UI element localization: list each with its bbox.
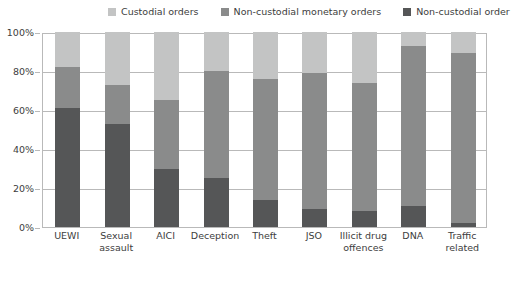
- bar-segment: [352, 211, 377, 227]
- legend-swatch-icon: [108, 8, 116, 16]
- bar-segment: [154, 100, 179, 168]
- chart-legend: Custodial ordersNon-custodial monetary o…: [108, 4, 508, 20]
- bar-jso[interactable]: [302, 32, 327, 227]
- bar-segment: [105, 124, 130, 227]
- bar-segment: [401, 206, 426, 227]
- bar-illicit-drug-offences[interactable]: [352, 32, 377, 227]
- bar-segment: [154, 32, 179, 100]
- y-axis: 0%20%40%60%80%100%: [0, 33, 40, 228]
- bar-segment: [451, 53, 476, 223]
- legend-item[interactable]: Non-custodial monetary orders: [221, 7, 382, 17]
- legend-item-label: Custodial orders: [121, 7, 199, 17]
- legend-item-label: Non-custodial order: [416, 7, 510, 17]
- legend-item-label: Non-custodial monetary orders: [234, 7, 382, 17]
- y-axis-tick-mark: [35, 150, 40, 151]
- bar-segment: [451, 32, 476, 53]
- stacked-bar-chart: Custodial ordersNon-custodial monetary o…: [0, 0, 512, 282]
- y-axis-tick-label: 0%: [19, 223, 34, 233]
- bars-layer: [43, 34, 486, 227]
- y-axis-tick-label: 60%: [13, 106, 34, 116]
- y-axis-tick-mark: [35, 33, 40, 34]
- y-axis-tick-mark: [35, 111, 40, 112]
- bar-segment: [204, 32, 229, 71]
- y-axis-tick-label: 100%: [7, 28, 34, 38]
- x-axis: UEWISexual assaultAICIDeceptionTheftJSOI…: [42, 230, 487, 280]
- y-axis-tick-label: 80%: [13, 67, 34, 77]
- y-axis-tick-mark: [35, 228, 40, 229]
- bar-segment: [302, 209, 327, 227]
- bar-segment: [204, 71, 229, 178]
- bar-segment: [105, 32, 130, 85]
- bar-segment: [451, 223, 476, 227]
- bar-segment: [55, 32, 80, 67]
- bar-sexual-assault[interactable]: [105, 32, 130, 227]
- legend-swatch-icon: [221, 8, 229, 16]
- bar-segment: [105, 85, 130, 124]
- bar-uewi[interactable]: [55, 32, 80, 227]
- bar-traffic-related[interactable]: [451, 32, 476, 227]
- y-axis-tick-mark: [35, 72, 40, 73]
- bar-segment: [253, 32, 278, 79]
- bar-segment: [352, 32, 377, 83]
- bar-segment: [253, 79, 278, 200]
- bar-segment: [302, 73, 327, 210]
- legend-item[interactable]: Custodial orders: [108, 7, 199, 17]
- y-axis-tick-label: 20%: [13, 184, 34, 194]
- bar-segment: [204, 178, 229, 227]
- bar-dna[interactable]: [401, 32, 426, 227]
- legend-swatch-icon: [403, 8, 411, 16]
- x-axis-category-label: Traffic related: [432, 230, 492, 253]
- bar-aici[interactable]: [154, 32, 179, 227]
- plot-area: [42, 33, 487, 228]
- y-axis-tick-label: 40%: [13, 145, 34, 155]
- bar-segment: [253, 200, 278, 227]
- bar-theft[interactable]: [253, 32, 278, 227]
- y-axis-tick-mark: [35, 189, 40, 190]
- bar-segment: [352, 83, 377, 212]
- bar-segment: [55, 108, 80, 227]
- bar-segment: [401, 46, 426, 206]
- bar-segment: [302, 32, 327, 73]
- bar-deception[interactable]: [204, 32, 229, 227]
- bar-segment: [55, 67, 80, 108]
- legend-item[interactable]: Non-custodial order: [403, 7, 510, 17]
- bar-segment: [401, 32, 426, 46]
- bar-segment: [154, 169, 179, 228]
